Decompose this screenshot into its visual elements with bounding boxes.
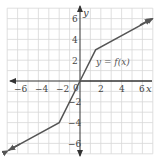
y-tick-label: −4 bbox=[68, 118, 82, 128]
x-tick-label: 0 bbox=[73, 83, 79, 93]
y-tick-label: 6 bbox=[72, 14, 78, 24]
x-tick-label: 4 bbox=[119, 84, 125, 94]
y-tick-label: 2 bbox=[72, 56, 78, 66]
function-label: y = f(x) bbox=[95, 57, 130, 67]
y-tick-label: −6 bbox=[68, 139, 82, 149]
function-graph: −6 −4 −2 0 2 4 6 x y 6 4 2 −2 −4 −6 y = … bbox=[0, 0, 157, 160]
x-tick-label: 6 bbox=[139, 84, 145, 94]
x-tick-label: −4 bbox=[35, 84, 49, 94]
y-tick-label: −2 bbox=[68, 97, 81, 107]
x-tick-label: 2 bbox=[98, 84, 104, 94]
x-axis-label: x bbox=[146, 83, 152, 94]
x-tick-label: −2 bbox=[56, 84, 69, 94]
x-tick-label: −6 bbox=[14, 84, 28, 94]
y-tick-label: 4 bbox=[72, 35, 78, 45]
y-axis-label: y bbox=[82, 7, 89, 18]
